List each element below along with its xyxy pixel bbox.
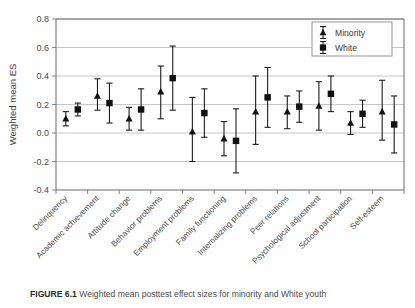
legend-label: White (335, 43, 357, 53)
minority-marker (126, 115, 133, 121)
data-point (106, 83, 112, 123)
y-tick-label: 0.4 (36, 71, 49, 81)
data-point (233, 109, 239, 173)
data-point (252, 76, 259, 144)
y-tick-label: -0.2 (33, 157, 49, 167)
white-marker (170, 75, 176, 81)
data-point (126, 107, 133, 130)
data-point (62, 112, 69, 126)
white-marker (138, 106, 144, 112)
data-point (296, 91, 302, 122)
y-axis-title: Weighted mean ES (7, 64, 18, 146)
data-point (189, 97, 196, 161)
data-point (75, 103, 81, 116)
minority-marker (379, 108, 386, 114)
minority-marker (94, 92, 101, 98)
legend: MinorityWhite (312, 22, 392, 56)
data-point (328, 76, 334, 112)
data-point (221, 122, 228, 156)
minority-marker (284, 108, 291, 114)
white-marker (264, 94, 270, 100)
x-tick-label: Academic achievement (35, 194, 102, 261)
data-point (264, 67, 270, 127)
minority-marker (252, 108, 259, 114)
white-marker (75, 106, 81, 112)
minority-marker (315, 102, 322, 108)
x-tick-label: Self-esteem (348, 194, 385, 231)
y-tick-label: 0.0 (36, 128, 49, 138)
white-marker (320, 44, 326, 50)
y-tick-label: -0.4 (33, 185, 49, 195)
white-marker (328, 91, 334, 97)
minority-marker (189, 128, 196, 134)
y-tick-label: 0.6 (36, 43, 49, 53)
figure-caption-label: FIGURE 6.1 (30, 289, 77, 299)
series-white (75, 46, 398, 173)
y-tick-label: 0.8 (36, 14, 49, 24)
data-point (347, 112, 354, 135)
series-minority (62, 66, 385, 161)
data-point (315, 82, 322, 130)
white-marker (359, 111, 365, 117)
data-point (138, 89, 144, 130)
figure-caption: FIGURE 6.1 Weighted mean posttest effect… (30, 289, 412, 300)
data-point (170, 46, 176, 110)
white-marker (233, 138, 239, 144)
y-tick-label: 0.2 (36, 100, 49, 110)
data-point (94, 79, 101, 110)
data-point (284, 96, 291, 129)
x-tick-label: School participation (297, 194, 354, 251)
figure-container: -0.4-0.20.00.20.40.60.8DelinquencyAcadem… (0, 0, 415, 308)
white-marker (391, 121, 397, 127)
data-point (201, 89, 207, 137)
minority-marker (347, 119, 354, 125)
x-tick-label: Internalizing problems (196, 194, 259, 257)
white-marker (201, 110, 207, 116)
data-point (379, 80, 386, 140)
minority-marker (221, 135, 228, 141)
white-marker (106, 100, 112, 106)
minority-marker (157, 88, 164, 94)
white-marker (296, 103, 302, 109)
x-tick-label: Employment problems (132, 194, 196, 258)
legend-label: Minority (335, 28, 366, 38)
minority-marker (62, 115, 69, 121)
figure-caption-text: Weighted mean posttest effect sizes for … (79, 289, 326, 299)
data-point (157, 66, 164, 119)
effect-size-plot: -0.4-0.20.00.20.40.60.8DelinquencyAcadem… (0, 0, 415, 308)
